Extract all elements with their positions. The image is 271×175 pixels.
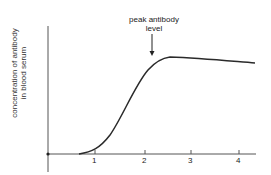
antibody-curve	[79, 57, 255, 154]
x-tick-label-2: 2	[142, 156, 146, 165]
peak-annotation-line1: peak antibody	[126, 15, 182, 24]
y-axis-label: concentration of antibody in blood serum	[10, 27, 28, 119]
origin-marker	[46, 152, 49, 155]
arrowhead-icon	[150, 51, 155, 56]
peak-annotation-line2: level	[126, 24, 182, 33]
x-tick-label-1: 1	[92, 156, 96, 165]
y-axis-label-line1: concentration of antibody	[10, 27, 19, 119]
x-tick-label-3: 3	[188, 156, 192, 165]
y-axis-label-line2: in blood serum	[19, 27, 28, 119]
peak-annotation: peak antibody level	[126, 15, 182, 33]
x-ticks	[95, 150, 239, 154]
x-tick-label-4: 4	[236, 156, 240, 165]
